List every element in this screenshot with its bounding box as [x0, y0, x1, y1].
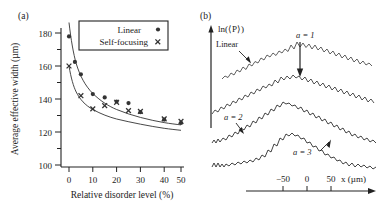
panel-a-xtick-50: 50: [177, 175, 187, 185]
panel-a-label: (a): [18, 11, 29, 22]
panel-b-a2-label: a = 2: [224, 112, 243, 122]
panel-a-ylabel: Average effective width (µm): [10, 43, 21, 155]
legend-label-self-focusing: Self-focusing: [100, 37, 149, 47]
panel-b-xlabel: x (µm): [341, 174, 366, 184]
panel-a-ytick-100: 100: [39, 161, 53, 171]
panel-a-ytick-120: 120: [39, 128, 53, 138]
panel-b-a3-label: a = 3: [293, 147, 312, 157]
panel-a-xtick-10: 10: [88, 175, 98, 185]
panel-a-xtick-40: 40: [160, 175, 170, 185]
panel-a-xtick-0: 0: [67, 175, 72, 185]
panel-b-label: (b): [200, 11, 211, 22]
panel-a-legend: Linear Self-focusing: [79, 21, 168, 50]
panel-a-xtick-20: 20: [112, 175, 122, 185]
panel-b-linear-label: Linear: [216, 39, 238, 49]
legend-dot-icon: [156, 27, 160, 31]
panel-b-xtick-50: 50: [327, 174, 337, 184]
legend-label-linear: Linear: [118, 25, 141, 35]
panel-a-ytick-140: 140: [39, 95, 53, 105]
panel-b-a1-label: a = 1: [296, 30, 315, 40]
figure-svg: (a) 180 160 140 120 100: [0, 0, 385, 211]
panel-a-xlabel: Relative disorder level (%): [71, 190, 174, 201]
panel-a-ytick-160: 160: [39, 62, 53, 72]
figure-root: (a) 180 160 140 120 100: [0, 0, 385, 211]
panel-b-ylabel: ln(⟨P⟩): [218, 24, 244, 34]
panel-a-ytick-180: 180: [39, 29, 53, 39]
panel-b-xtick-neg50: −50: [276, 174, 291, 184]
panel-a-xtick-30: 30: [136, 175, 146, 185]
panel-b-xtick-0: 0: [305, 174, 310, 184]
